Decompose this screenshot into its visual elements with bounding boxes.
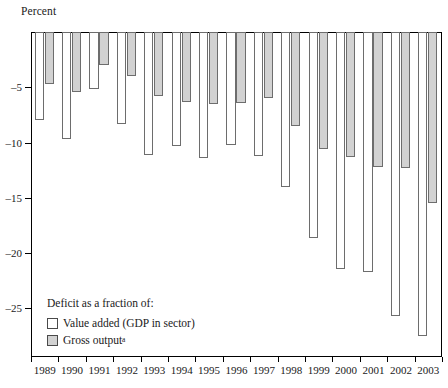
x-tick xyxy=(223,357,224,362)
x-tick xyxy=(195,357,196,362)
bar-1999-value-added xyxy=(309,32,318,238)
chart-figure: Percent –5–10–15–20–25 19891990199119921… xyxy=(0,0,448,388)
legend-title: Deficit as a fraction of: xyxy=(47,296,195,311)
x-tick xyxy=(442,357,443,362)
x-tick-label-2002: 2002 xyxy=(390,364,412,376)
bar-1992-gross-output xyxy=(127,32,136,76)
y-tick xyxy=(25,143,32,144)
x-tick xyxy=(86,357,87,362)
x-tick-label-1992: 1992 xyxy=(116,364,138,376)
bar-1992-value-added xyxy=(117,32,126,124)
bar-1994-gross-output xyxy=(182,32,191,102)
y-tick-label: –20 xyxy=(6,247,23,259)
bar-1989-value-added xyxy=(35,32,44,120)
x-tick-label-1993: 1993 xyxy=(143,364,165,376)
bar-1996-value-added xyxy=(226,32,235,145)
bar-1993-gross-output xyxy=(154,32,163,96)
x-tick xyxy=(360,357,361,362)
x-tick xyxy=(332,357,333,362)
x-tick-label-1989: 1989 xyxy=(34,364,56,376)
x-tick xyxy=(305,357,306,362)
x-tick-label-1990: 1990 xyxy=(61,364,83,376)
legend-swatch-value-added xyxy=(47,318,58,329)
y-tick-label: –10 xyxy=(6,137,23,149)
bar-2001-gross-output xyxy=(373,32,382,167)
bar-2000-gross-output xyxy=(346,32,355,157)
legend-label-gross-output: Gross output xyxy=(63,333,122,348)
x-tick xyxy=(415,357,416,362)
bar-1990-value-added xyxy=(62,32,71,139)
bar-2000-value-added xyxy=(336,32,345,269)
bar-2002-gross-output xyxy=(401,32,410,168)
y-tick-label: –25 xyxy=(6,302,23,314)
bar-1994-value-added xyxy=(172,32,181,146)
legend-item-gross-output: Gross outputa xyxy=(47,333,195,348)
bar-1995-gross-output xyxy=(209,32,218,104)
x-axis-line xyxy=(31,356,442,357)
x-tick-label-1995: 1995 xyxy=(198,364,220,376)
legend-swatch-gross-output xyxy=(47,335,58,346)
x-tick xyxy=(387,357,388,362)
x-tick-label-1999: 1999 xyxy=(308,364,330,376)
x-tick xyxy=(168,357,169,362)
bar-2001-value-added xyxy=(363,32,372,272)
bar-1991-value-added xyxy=(89,32,98,89)
bar-1991-gross-output xyxy=(99,32,108,65)
bar-1996-gross-output xyxy=(236,32,245,103)
bar-1989-gross-output xyxy=(45,32,54,84)
x-tick-label-1991: 1991 xyxy=(89,364,111,376)
y-tick xyxy=(25,253,32,254)
bar-2003-value-added xyxy=(418,32,427,336)
y-tick xyxy=(25,198,32,199)
bar-1999-gross-output xyxy=(319,32,328,149)
y-tick xyxy=(25,87,32,88)
y-tick-label: –15 xyxy=(6,192,23,204)
x-tick xyxy=(113,357,114,362)
legend-footnote-marker: a xyxy=(122,335,125,345)
plot-right-border xyxy=(441,32,442,357)
x-tick-label-2000: 2000 xyxy=(335,364,357,376)
bar-1998-gross-output xyxy=(291,32,300,126)
legend-label-value-added: Value added (GDP in sector) xyxy=(63,316,195,331)
bar-1995-value-added xyxy=(199,32,208,158)
bar-2002-value-added xyxy=(391,32,400,316)
x-tick xyxy=(31,357,32,362)
bar-1997-gross-output xyxy=(264,32,273,98)
x-tick xyxy=(141,357,142,362)
x-tick xyxy=(58,357,59,362)
y-tick-label: –5 xyxy=(11,81,22,93)
bar-1990-gross-output xyxy=(72,32,81,92)
x-tick-label-1997: 1997 xyxy=(253,364,275,376)
x-tick-label-1996: 1996 xyxy=(226,364,248,376)
bar-1997-value-added xyxy=(254,32,263,156)
bar-1998-value-added xyxy=(281,32,290,187)
legend: Deficit as a fraction of: Value added (G… xyxy=(47,296,195,348)
x-tick xyxy=(250,357,251,362)
bar-1993-value-added xyxy=(144,32,153,155)
x-tick-label-1994: 1994 xyxy=(171,364,193,376)
x-tick xyxy=(278,357,279,362)
x-tick-label-1998: 1998 xyxy=(280,364,302,376)
x-tick-label-2003: 2003 xyxy=(417,364,439,376)
bar-2003-gross-output xyxy=(428,32,437,203)
y-axis-caption: Percent xyxy=(21,5,56,17)
x-tick-label-2001: 2001 xyxy=(363,364,385,376)
legend-item-value-added: Value added (GDP in sector) xyxy=(47,316,195,331)
y-tick xyxy=(25,308,32,309)
